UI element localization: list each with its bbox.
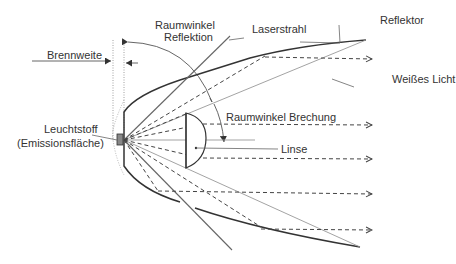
focal-lines <box>113 40 124 140</box>
label-linse: Linse <box>281 143 307 155</box>
boundary-rays <box>124 40 366 247</box>
label-raumwinkel-brechung: Raumwinkel Brechung <box>226 111 336 123</box>
brennweite-indicator <box>32 61 138 63</box>
laser-headlight-diagram: Raumwinkel Reflektion Laserstrahl Reflek… <box>0 0 456 264</box>
label-leuchtstoff-1: Leuchtstoff <box>44 123 99 135</box>
raumwinkel-reflektion-arc <box>128 42 212 102</box>
lens <box>186 113 206 168</box>
label-laserstrahl: Laserstrahl <box>252 23 306 35</box>
label-weisses-licht: Weißes Licht <box>392 73 455 85</box>
emission-surface <box>117 134 123 145</box>
reflector-lower-2 <box>195 208 360 247</box>
label-reflektor: Reflektor <box>380 14 424 26</box>
label-leuchtstoff-2: (Emissionsfläche) <box>17 137 104 149</box>
label-raumwinkel-reflektion-2: Reflektion <box>164 31 213 43</box>
raumwinkel-brechung-arc <box>214 104 224 142</box>
label-brennweite: Brennweite <box>47 49 102 61</box>
label-raumwinkel-reflektion-1: Raumwinkel <box>155 19 215 31</box>
